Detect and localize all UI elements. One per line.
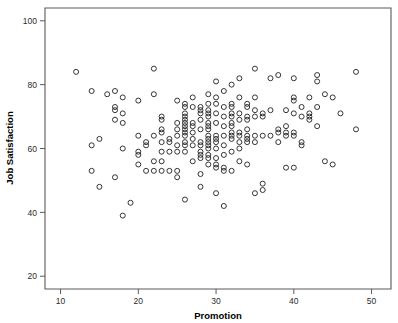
- data-point: [315, 73, 320, 78]
- data-point: [221, 203, 226, 208]
- data-point: [252, 140, 257, 145]
- data-point: [198, 184, 203, 189]
- y-axis-ticks: 20406080100: [23, 16, 45, 281]
- data-point: [151, 133, 156, 138]
- data-point: [330, 95, 335, 100]
- data-point: [276, 130, 281, 135]
- data-point: [120, 120, 125, 125]
- data-point: [214, 146, 219, 151]
- plot-frame: [45, 8, 391, 289]
- data-point: [260, 133, 265, 138]
- y-tick-label: 100: [23, 16, 37, 26]
- data-point: [221, 89, 226, 94]
- data-point: [229, 82, 234, 87]
- data-point: [245, 117, 250, 122]
- y-axis-title: Job Satisfaction: [4, 111, 15, 185]
- x-tick-label: 40: [289, 296, 299, 306]
- data-point: [252, 66, 257, 71]
- data-point: [136, 162, 141, 167]
- x-tick-label: 50: [367, 296, 377, 306]
- data-point: [221, 143, 226, 148]
- data-point: [237, 159, 242, 164]
- scatter-plot-figure: 20406080100 1020304050 Promotion Job Sat…: [0, 0, 398, 323]
- data-point: [206, 127, 211, 132]
- data-point: [182, 197, 187, 202]
- data-point: [284, 108, 289, 113]
- data-point: [260, 188, 265, 193]
- data-point: [144, 168, 149, 173]
- data-point: [182, 104, 187, 109]
- data-point: [221, 168, 226, 173]
- data-point: [237, 117, 242, 122]
- data-point: [299, 114, 304, 119]
- data-point: [190, 130, 195, 135]
- data-point: [291, 98, 296, 103]
- data-point: [214, 111, 219, 116]
- data-point: [291, 133, 296, 138]
- data-point: [97, 136, 102, 141]
- data-point: [284, 124, 289, 129]
- data-point: [159, 149, 164, 154]
- data-point: [237, 111, 242, 116]
- data-point: [214, 101, 219, 106]
- data-point: [190, 159, 195, 164]
- data-point: [175, 133, 180, 138]
- data-point: [237, 146, 242, 151]
- data-point: [291, 111, 296, 116]
- data-point: [159, 117, 164, 122]
- data-point: [120, 95, 125, 100]
- data-point: [190, 104, 195, 109]
- data-point: [221, 124, 226, 129]
- data-point: [229, 149, 234, 154]
- data-point: [237, 76, 242, 81]
- data-point: [338, 111, 343, 116]
- data-point: [229, 114, 234, 119]
- data-point: [206, 146, 211, 151]
- y-tick-label: 80: [28, 80, 38, 90]
- data-point: [214, 79, 219, 84]
- data-point: [190, 136, 195, 141]
- data-point: [112, 89, 117, 94]
- data-point: [237, 133, 242, 138]
- data-point: [221, 152, 226, 157]
- data-point: [229, 136, 234, 141]
- x-axis-title: Promotion: [194, 310, 242, 321]
- data-point: [175, 143, 180, 148]
- data-point: [198, 117, 203, 122]
- data-point: [214, 140, 219, 145]
- data-point: [159, 168, 164, 173]
- data-point: [167, 149, 172, 154]
- data-point: [175, 168, 180, 173]
- data-point: [120, 213, 125, 218]
- data-point: [245, 162, 250, 167]
- data-point: [159, 130, 164, 135]
- data-point: [151, 92, 156, 97]
- data-point: [198, 172, 203, 177]
- data-point: [260, 181, 265, 186]
- data-point: [252, 108, 257, 113]
- data-point: [214, 120, 219, 125]
- data-point: [299, 104, 304, 109]
- data-point: [268, 133, 273, 138]
- data-point: [175, 98, 180, 103]
- data-point: [260, 114, 265, 119]
- data-point: [120, 146, 125, 151]
- data-point: [206, 162, 211, 167]
- data-points: [74, 66, 359, 218]
- data-point: [284, 165, 289, 170]
- y-tick-label: 20: [28, 271, 38, 281]
- data-point: [97, 184, 102, 189]
- data-point: [268, 108, 273, 113]
- x-tick-label: 20: [134, 296, 144, 306]
- data-point: [354, 127, 359, 132]
- data-point: [214, 95, 219, 100]
- data-point: [221, 114, 226, 119]
- data-point: [190, 95, 195, 100]
- data-point: [307, 95, 312, 100]
- data-point: [252, 133, 257, 138]
- data-point: [144, 140, 149, 145]
- data-point: [136, 152, 141, 157]
- x-tick-label: 10: [56, 296, 66, 306]
- data-point: [206, 114, 211, 119]
- data-point: [322, 159, 327, 164]
